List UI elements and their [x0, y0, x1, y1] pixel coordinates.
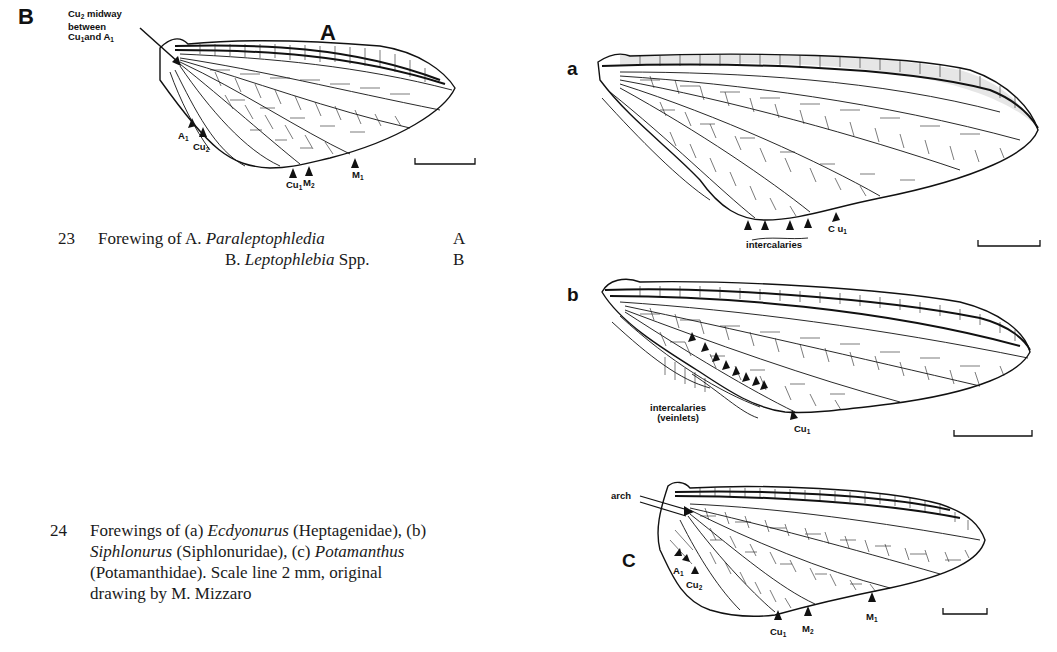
vein-label-M1-c: M1	[866, 612, 878, 625]
wing-diagram-ecdyonurus	[580, 40, 1050, 260]
vein-label-cu1-a: C u1	[828, 224, 847, 237]
vein-label-Cu1: Cu1	[286, 180, 302, 193]
caption-figure-24: 24Forewings of (a) Ecdyonurus (Heptageni…	[50, 520, 570, 604]
vein-label-A1-c: A1	[673, 566, 684, 579]
intercalaries-label-b: intercalaries (veinlets)	[650, 403, 706, 423]
vein-label-Cu2: Cu2	[193, 142, 209, 155]
wing-diagram-paraleptophlebia	[0, 0, 500, 200]
vein-label-cu1-b: Cu1	[794, 424, 810, 437]
vein-label-M2: M2	[303, 178, 315, 191]
panel-label-a: a	[567, 58, 578, 80]
vein-label-Cu1-c: Cu1	[770, 627, 786, 640]
caption-figure-23: 23Forewing of A. Paraleptophledia A B. L…	[58, 228, 508, 270]
vein-label-A1: A1	[178, 131, 189, 144]
wing-diagram-potamanthus	[560, 470, 1030, 650]
vein-label-Cu2-c: Cu2	[686, 580, 702, 593]
panel-label-b: b	[567, 284, 579, 306]
intercalaries-label-a: intercalaries	[746, 240, 802, 250]
vein-label-M2-c: M2	[802, 624, 814, 637]
vein-label-M1: M1	[352, 170, 364, 183]
